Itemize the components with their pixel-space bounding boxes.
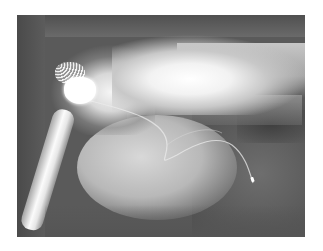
radiograph-image — [17, 15, 305, 237]
pacing-lead — [17, 15, 305, 237]
pacemaker-generator — [64, 77, 96, 104]
